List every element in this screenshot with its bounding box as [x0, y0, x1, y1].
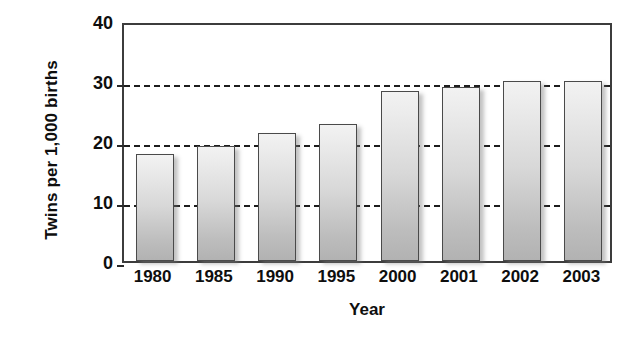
- bar-2001: [442, 87, 480, 261]
- x-axis-label: Year: [122, 300, 612, 320]
- bar-1990: [258, 133, 296, 261]
- bar-1995: [319, 124, 357, 261]
- x-tick-label-2000: 2000: [367, 268, 428, 285]
- x-tick-label-2003: 2003: [551, 268, 612, 285]
- tick-mark-20: [117, 145, 124, 147]
- bar-slot: [136, 25, 174, 261]
- x-axis-tick-labels: 19801985199019952000200120022003: [122, 268, 612, 296]
- chart-figure: Twins per 1,000 births 010203040 1980198…: [0, 0, 634, 340]
- x-tick-label-1985: 1985: [183, 268, 244, 285]
- x-tick-label-1990: 1990: [245, 268, 306, 285]
- bar-2003: [564, 81, 602, 261]
- tick-mark-30: [117, 85, 124, 87]
- bar-1980: [136, 154, 174, 261]
- x-tick-label-2002: 2002: [490, 268, 551, 285]
- x-tick-label-2001: 2001: [428, 268, 489, 285]
- tick-mark-10: [117, 205, 124, 207]
- bar-series: [124, 25, 610, 261]
- bar-slot: [381, 25, 419, 261]
- y-tick-label-10: 10: [69, 194, 113, 212]
- bar-slot: [564, 25, 602, 261]
- plot-area: [122, 23, 612, 263]
- y-axis-tick-labels: 010203040: [38, 0, 113, 340]
- y-tick-label-30: 30: [69, 74, 113, 92]
- bar-slot: [319, 25, 357, 261]
- bar-1985: [197, 146, 235, 261]
- bar-slot: [503, 25, 541, 261]
- bar-2002: [503, 81, 541, 261]
- bar-2000: [381, 91, 419, 261]
- x-tick-label-1995: 1995: [306, 268, 367, 285]
- tick-mark-0: [117, 265, 124, 267]
- bar-slot: [442, 25, 480, 261]
- x-tick-label-1980: 1980: [122, 268, 183, 285]
- bar-slot: [197, 25, 235, 261]
- y-tick-label-0: 0: [69, 254, 113, 272]
- y-tick-label-40: 40: [69, 14, 113, 32]
- bar-slot: [258, 25, 296, 261]
- y-tick-label-20: 20: [69, 134, 113, 152]
